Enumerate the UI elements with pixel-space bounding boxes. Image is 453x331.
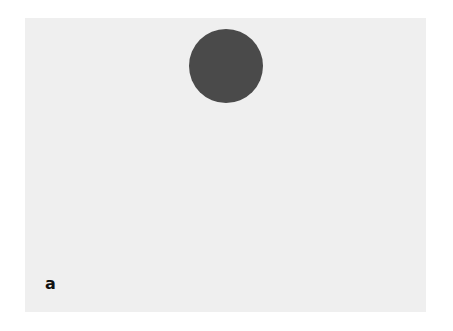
panel-label: a bbox=[45, 276, 56, 292]
dark-circle bbox=[189, 29, 263, 103]
figure-panel: a bbox=[25, 18, 426, 312]
